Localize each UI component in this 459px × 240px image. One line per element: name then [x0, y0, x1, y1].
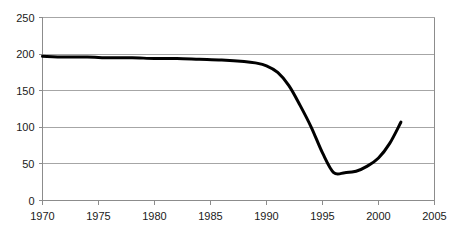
y-tick-label-50: 50 [22, 158, 34, 170]
x-tick-label-1990: 1990 [254, 210, 278, 222]
data-series-group [43, 56, 401, 174]
x-tick-label-1975: 1975 [86, 210, 110, 222]
x-tick-label-1970: 1970 [30, 210, 54, 222]
x-tick-labels-group: 19701975198019851990199520002005 [30, 210, 446, 222]
x-tickmarks-group [43, 201, 435, 205]
gridlines-group [43, 18, 435, 201]
y-tick-label-200: 200 [16, 48, 34, 60]
x-tick-label-2005: 2005 [422, 210, 446, 222]
data-line-series-1 [43, 56, 401, 174]
y-tickmarks-group [39, 18, 43, 201]
x-tick-label-1980: 1980 [142, 210, 166, 222]
y-tick-label-100: 100 [16, 121, 34, 133]
y-tick-labels-group: 250200150100500 [16, 12, 34, 207]
x-tick-label-1985: 1985 [198, 210, 222, 222]
line-chart: 250200150100500 197019751980198519901995… [0, 0, 459, 240]
y-tick-label-0: 0 [28, 195, 34, 207]
y-tick-label-150: 150 [16, 85, 34, 97]
y-tick-label-250: 250 [16, 12, 34, 24]
axis-lines-group [43, 18, 435, 201]
x-tick-label-2000: 2000 [366, 210, 390, 222]
x-tick-label-1995: 1995 [310, 210, 334, 222]
chart-canvas: 250200150100500 197019751980198519901995… [0, 0, 459, 240]
